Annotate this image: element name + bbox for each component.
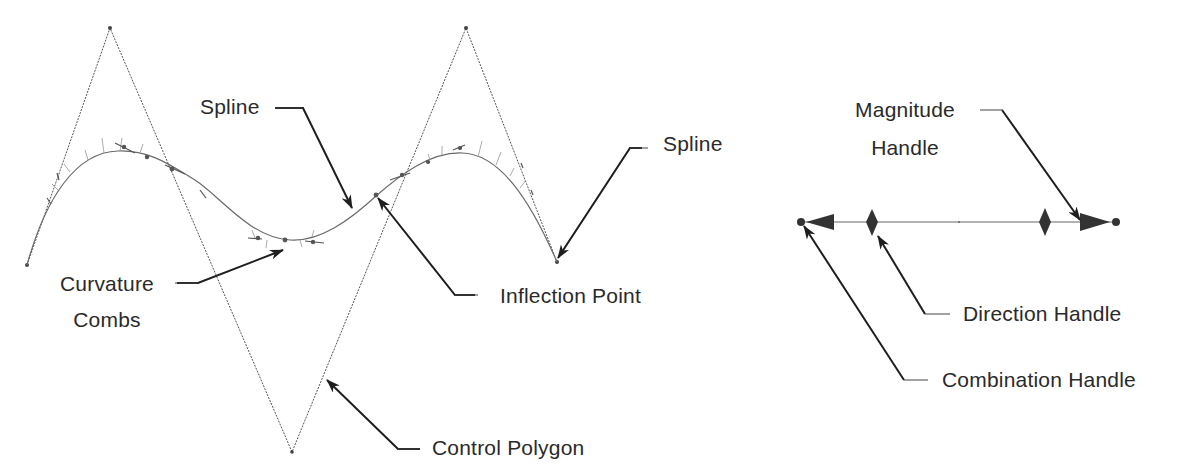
spline-handle[interactable] <box>797 208 1120 236</box>
magnitude-handle-arrow-right-icon[interactable] <box>1080 213 1110 231</box>
magnitude-handle-arrow-left-icon[interactable] <box>806 214 834 230</box>
spline-curve[interactable] <box>27 151 557 265</box>
label-direction-handle: Direction Handle <box>963 301 1121 327</box>
control-vertex[interactable] <box>464 26 468 30</box>
leader-spline-middle <box>275 108 352 208</box>
leader-inflection-point <box>378 198 475 295</box>
label-curvature-combs: Curvature Combs <box>42 271 172 333</box>
leader-control-polygon <box>327 380 420 449</box>
leader-direction-handle <box>878 236 925 314</box>
control-vertex[interactable] <box>108 26 112 30</box>
leader-lines <box>177 108 642 449</box>
label-control-polygon: Control Polygon <box>432 435 584 461</box>
label-combination-handle: Combination Handle <box>942 367 1136 393</box>
label-curvature-combs-line1: Curvature <box>42 271 172 297</box>
label-magnitude-handle-line1: Magnitude <box>840 97 970 123</box>
direction-handle-diamond-right-icon[interactable] <box>1039 208 1051 236</box>
spline-knot-markers <box>47 143 533 244</box>
curvature-combs <box>52 138 526 248</box>
direction-handle-diamond-left-icon[interactable] <box>866 209 878 236</box>
label-spline-middle: Spline <box>200 94 260 120</box>
leader-magnitude-handle <box>1002 110 1080 220</box>
combination-handle-dot-left[interactable] <box>797 218 805 226</box>
combination-handle-dot-right[interactable] <box>1112 218 1120 226</box>
control-vertex[interactable] <box>290 450 294 454</box>
leader-spline-end <box>558 148 642 258</box>
leader-combination-handle <box>804 226 904 380</box>
label-magnitude-handle-line2: Handle <box>840 135 970 161</box>
label-curvature-combs-line2: Combs <box>42 307 172 333</box>
label-magnitude-handle: Magnitude Handle <box>840 97 970 161</box>
leader-curvature-combs <box>177 250 283 283</box>
label-spline-end: Spline <box>663 131 723 157</box>
diagram-canvas <box>0 0 1197 472</box>
label-inflection-point: Inflection Point <box>500 283 641 309</box>
